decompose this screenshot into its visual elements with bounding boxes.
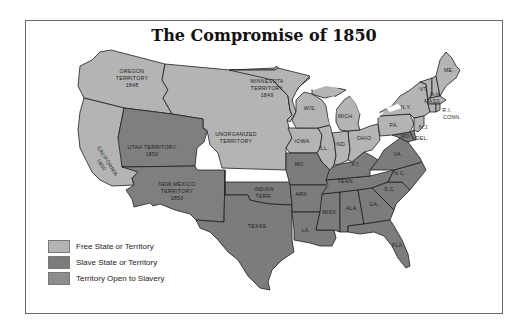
- label-unorganized-2: TERRITORY: [220, 138, 253, 144]
- legend-item-slave: Slave State or Territory: [48, 254, 164, 270]
- label-oregon-2: TERRITORY: [116, 75, 149, 81]
- label-ga: GA.: [369, 201, 379, 207]
- label-ky: KY.: [352, 161, 361, 167]
- label-pa: PA.: [390, 122, 399, 128]
- label-md: MD.: [401, 133, 411, 139]
- label-nj: N.J.: [419, 124, 429, 130]
- label-tenn: TENN.: [337, 178, 354, 184]
- region-maine: [436, 52, 460, 96]
- label-del: DEL.: [416, 135, 429, 141]
- label-vt: VT.: [420, 86, 428, 92]
- label-minnesota-3: 1849: [261, 92, 274, 98]
- label-indian-1: INDIAN: [254, 186, 273, 192]
- label-iowa: IOWA: [295, 138, 310, 144]
- label-newmexico-3: 1850: [171, 195, 184, 201]
- legend-label: Slave State or Territory: [76, 258, 157, 267]
- label-mass: MASS.: [424, 98, 442, 104]
- label-utah-1: UTAH TERRITORY: [127, 144, 176, 150]
- label-nh: N.H.: [430, 91, 442, 97]
- label-ohio: OHIO: [357, 135, 371, 141]
- label-sc: S.C.: [384, 186, 395, 192]
- label-ill: ILL.: [319, 145, 329, 151]
- label-ala: ALA.: [346, 205, 358, 211]
- label-oregon-3: 1848: [126, 82, 139, 88]
- label-va: VA.: [394, 151, 403, 157]
- label-newmexico-2: TERRITORY: [161, 188, 194, 194]
- label-me: ME.: [444, 67, 454, 73]
- label-newmexico-1: NEW MEXICO: [158, 181, 195, 187]
- label-unorganized-1: UNORGANIZED: [215, 131, 257, 137]
- label-wis: WIS.: [304, 105, 316, 111]
- label-ark: ARK.: [295, 191, 308, 197]
- label-ind: IND.: [335, 141, 347, 147]
- label-oregon-1: OREGON: [120, 68, 145, 74]
- label-miss: MISS.: [322, 209, 338, 215]
- label-indian-2: TERR.: [255, 193, 272, 199]
- slave-swatch-icon: [48, 256, 70, 269]
- legend-label: Free State or Territory: [76, 242, 154, 251]
- legend-item-free: Free State or Territory: [48, 238, 164, 254]
- open-swatch-icon: [48, 272, 70, 285]
- label-ny: N.Y.: [401, 104, 412, 110]
- label-mich: MICH.: [338, 113, 354, 119]
- label-texas: TEXAS: [248, 223, 267, 229]
- label-conn: CONN.: [443, 114, 461, 120]
- legend-label: Territory Open to Slavery: [76, 274, 164, 283]
- map-legend: Free State or Territory Slave State or T…: [48, 238, 164, 286]
- label-mo: MO.: [295, 161, 306, 167]
- label-utah-2: 1850: [146, 151, 159, 157]
- legend-item-open: Territory Open to Slavery: [48, 270, 164, 286]
- label-minnesota-1: MINNESOTA: [250, 78, 283, 84]
- region-new-mexico-territory: [122, 166, 225, 222]
- label-la: LA.: [302, 227, 311, 233]
- label-minnesota-2: TERRITORY: [251, 85, 284, 91]
- free-swatch-icon: [48, 240, 70, 253]
- label-fla: FLA.: [392, 242, 404, 248]
- region-rhode-island: [436, 104, 440, 112]
- label-nc: N.C.: [394, 170, 406, 176]
- label-ri: R.I.: [442, 107, 451, 113]
